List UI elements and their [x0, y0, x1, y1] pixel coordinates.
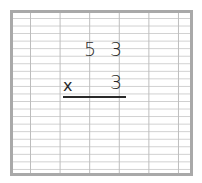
answer-underline: [63, 96, 126, 98]
multiplier-ones-digit: 3: [110, 73, 122, 92]
grid-paper: [10, 10, 193, 176]
multiplicand-ones-digit: 3: [110, 40, 122, 59]
multiplicand-tens-digit: 5: [84, 40, 96, 59]
multiply-operator: x: [63, 78, 72, 94]
